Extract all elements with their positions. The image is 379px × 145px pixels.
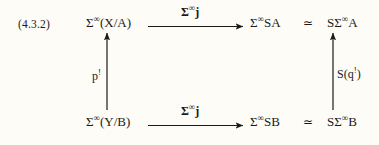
arrow-label-bottom-prefix: Σ	[181, 104, 189, 118]
node-top-middle-prefix: Σ	[250, 15, 258, 30]
equation-number: (4.3.2)	[18, 18, 50, 30]
arrow-label-bottom-horizontal: Σ∞j	[181, 105, 199, 117]
arrow-layer	[0, 0, 379, 145]
arrow-label-top-rest: j	[195, 5, 199, 19]
arrow-label-top-horizontal: Σ∞j	[181, 6, 199, 18]
equivalence-sign-top: ≃	[303, 17, 313, 29]
arrow-label-right-tail: )	[357, 67, 361, 81]
node-top-right-prefix: SΣ	[327, 15, 342, 30]
arrow-label-right-vertical: S(q!)	[337, 68, 361, 80]
equivalence-sign-bottom: ≃	[303, 116, 313, 128]
arrow-label-bottom-rest: j	[195, 104, 199, 118]
node-bottom-left-prefix: Σ	[86, 114, 94, 129]
node-top-left-prefix: Σ	[86, 15, 94, 30]
node-top-left: Σ∞(X/A)	[86, 16, 131, 29]
node-bottom-left: Σ∞(Y/B)	[86, 115, 130, 128]
node-bottom-middle: Σ∞SB	[250, 115, 280, 128]
commutative-diagram: (4.3.2) Σ∞(X/A) Σ∞SA ≃ SΣ∞A	[0, 0, 379, 145]
arrow-label-top-prefix: Σ	[181, 5, 189, 19]
node-bottom-middle-rest: SB	[264, 114, 280, 129]
arrow-label-right-base: S(q	[337, 67, 354, 81]
node-bottom-left-rest: (Y/B)	[100, 114, 130, 129]
node-top-middle-rest: SA	[264, 15, 281, 30]
arrow-label-left-vertical: p!	[92, 70, 101, 82]
node-bottom-right: SΣ∞B	[327, 115, 357, 128]
node-bottom-middle-prefix: Σ	[250, 114, 258, 129]
arrow-label-left-superscript: !	[98, 67, 101, 77]
node-top-right: SΣ∞A	[327, 16, 358, 29]
node-top-middle: Σ∞SA	[250, 16, 281, 29]
node-top-right-rest: A	[348, 15, 357, 30]
node-top-left-rest: (X/A)	[100, 15, 131, 30]
node-bottom-right-rest: B	[348, 114, 357, 129]
node-bottom-right-prefix: SΣ	[327, 114, 342, 129]
